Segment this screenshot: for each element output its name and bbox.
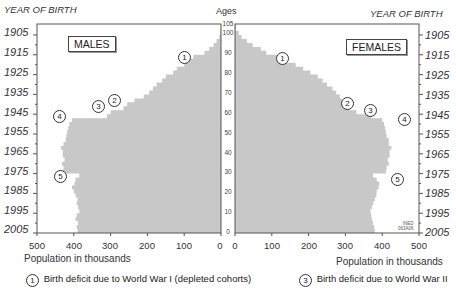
- source-credit: INED 063A06: [398, 221, 414, 231]
- year-tick-label: 1945: [4, 106, 28, 118]
- year-tick-label: 1965: [4, 145, 28, 157]
- age-tick-label: 30: [221, 168, 235, 175]
- year-tick-label: 1915: [4, 46, 28, 58]
- x-axis-title-left: Population in thousands: [24, 253, 131, 264]
- year-tick-label: 1935: [425, 89, 449, 101]
- year-of-birth-title-left: YEAR OF BIRTH: [4, 4, 77, 15]
- population-tick-label: 100: [257, 240, 287, 251]
- age-tick-label: 60: [221, 109, 235, 116]
- annotation-marker-4-males: 4: [53, 110, 66, 123]
- legend-item-1: 1 Birth deficit due to World War I (depl…: [26, 273, 251, 286]
- legend-text-3: Birth deficit due to World War II: [317, 273, 448, 284]
- year-tick-label: 1995: [425, 207, 449, 219]
- population-tick-label: 200: [132, 240, 162, 251]
- age-tick-label: 10: [221, 208, 235, 215]
- annotation-marker-1-males: 1: [178, 51, 191, 64]
- year-tick-label: 1915: [425, 49, 449, 61]
- year-tick-label: 1925: [4, 66, 28, 78]
- population-tick-label: 200: [294, 240, 324, 251]
- annotation-marker-2-females: 2: [341, 97, 354, 110]
- population-tick-label: 500: [404, 240, 434, 251]
- age-tick-label: 90: [221, 49, 235, 56]
- legend-item-3: 3 Birth deficit due to World War II: [299, 273, 448, 286]
- population-tick-label: 400: [59, 240, 89, 251]
- population-tick-label: 100: [169, 240, 199, 251]
- legend-marker-3: 3: [299, 274, 312, 287]
- age-tick-label: 40: [221, 149, 235, 156]
- annotation-marker-4-females: 4: [398, 113, 411, 126]
- year-tick-label: 1955: [425, 128, 449, 140]
- females-label: FEMALES: [346, 39, 407, 55]
- annotation-marker-5-females: 5: [391, 173, 404, 186]
- population-tick-label: 0: [220, 240, 250, 251]
- annotation-marker-5-males: 5: [54, 170, 67, 183]
- age-tick-label: 20: [221, 188, 235, 195]
- year-tick-label: 1935: [4, 86, 28, 98]
- females-bars: [235, 25, 391, 233]
- year-tick-label: 1975: [4, 165, 28, 177]
- x-axis-title-right: Population in thousands: [336, 256, 443, 267]
- annotation-marker-1-females: 1: [276, 52, 289, 65]
- ages-axis-title: Ages: [216, 6, 237, 16]
- year-tick-label: 1905: [4, 26, 28, 38]
- population-tick-label: 500: [22, 240, 52, 251]
- year-of-birth-title-right: YEAR OF BIRTH: [370, 8, 443, 19]
- year-tick-label: 2005: [4, 223, 28, 235]
- age-tick-label: 50: [221, 129, 235, 136]
- age-tick-label: 0: [221, 228, 235, 235]
- annotation-marker-3-males: 3: [92, 100, 105, 113]
- year-tick-label: 1965: [425, 148, 449, 160]
- year-tick-label: 1925: [425, 69, 449, 81]
- year-tick-label: 1945: [425, 109, 449, 121]
- year-tick-label: 1905: [425, 29, 449, 41]
- annotation-marker-2-males: 2: [108, 94, 121, 107]
- population-tick-label: 300: [95, 240, 125, 251]
- year-tick-label: 1995: [4, 204, 28, 216]
- year-tick-label: 1985: [4, 184, 28, 196]
- annotation-marker-3-females: 3: [364, 104, 377, 117]
- legend-text-1: Birth deficit due to World War I (deplet…: [44, 273, 252, 284]
- age-tick-label: 105: [221, 20, 235, 27]
- population-tick-label: 400: [367, 240, 397, 251]
- legend-marker-1: 1: [26, 274, 39, 287]
- males-bars: [61, 25, 221, 233]
- year-tick-label: 2005: [425, 226, 449, 238]
- age-tick-label: 70: [221, 89, 235, 96]
- year-tick-label: 1985: [425, 187, 449, 199]
- year-tick-label: 1955: [4, 125, 28, 137]
- year-tick-label: 1975: [425, 168, 449, 180]
- population-tick-label: 300: [330, 240, 360, 251]
- age-tick-label: 80: [221, 69, 235, 76]
- males-label: MALES: [68, 36, 116, 52]
- age-tick-label: 100: [221, 29, 235, 36]
